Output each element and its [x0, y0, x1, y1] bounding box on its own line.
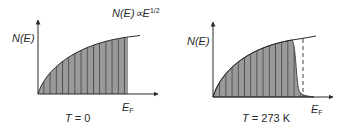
density-of-states-diagram: N(E) EF T = 0 N(E)∝E1/2 N(E) EF T = 273 … — [0, 0, 345, 130]
temperature-label: T = 273 K — [242, 112, 291, 124]
fermi-energy-label: EF — [122, 101, 134, 114]
temperature-label: T = 0 — [65, 112, 90, 124]
filled-states-area — [213, 40, 314, 97]
y-axis-label: N(E) — [12, 32, 35, 44]
panel-t273k: N(E) EF T = 273 K — [187, 22, 333, 124]
dos-formula: N(E)∝E1/2 — [112, 7, 160, 19]
y-axis-label: N(E) — [187, 35, 210, 47]
fermi-energy-label: EF — [311, 103, 323, 116]
filled-states-area — [38, 37, 128, 94]
panel-t0: N(E) EF T = 0 — [12, 20, 158, 124]
